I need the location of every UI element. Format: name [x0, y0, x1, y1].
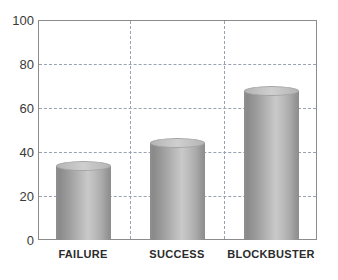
- y-axis-tick-labels: 100 80 60 40 20 0: [0, 20, 34, 240]
- y-axis-tick-label: 80: [0, 58, 34, 71]
- gridline-vertical-1: [130, 21, 131, 239]
- gridline-horizontal-40: [39, 152, 316, 153]
- gridline-vertical-2: [224, 21, 225, 239]
- gridline-horizontal-60: [39, 108, 316, 109]
- bar-chart: 100 80 60 40 20 0 FAILURE SUCCESS BL: [0, 0, 338, 280]
- x-axis-category-labels: FAILURE SUCCESS BLOCKBUSTER: [38, 248, 317, 266]
- x-axis-label-blockbuster: BLOCKBUSTER: [227, 248, 315, 261]
- plot-area: [38, 20, 317, 240]
- y-axis-tick-label: 40: [0, 146, 34, 159]
- y-axis-tick-label: 100: [0, 14, 34, 27]
- y-axis-tick-label: 20: [0, 190, 34, 203]
- gridline-horizontal-80: [39, 64, 316, 65]
- y-axis-tick-label: 60: [0, 102, 34, 115]
- gridline-horizontal-20: [39, 196, 316, 197]
- x-axis-label-failure: FAILURE: [58, 248, 107, 261]
- x-axis-label-success: SUCCESS: [149, 248, 204, 261]
- y-axis-tick-label: 0: [0, 234, 34, 247]
